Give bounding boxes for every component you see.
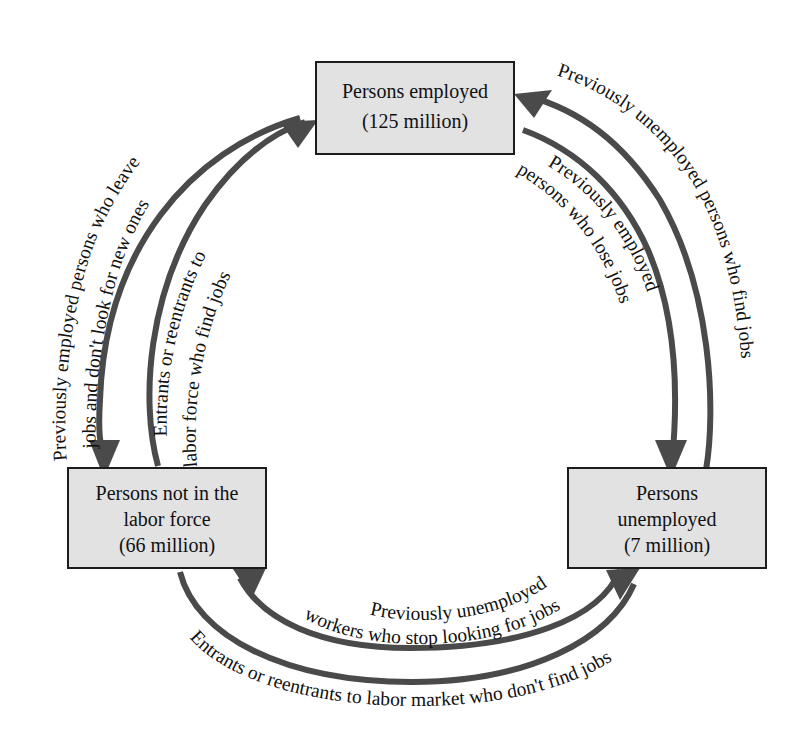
diagram-canvas: Previously employed persons who leave jo…: [0, 0, 810, 732]
box-unemployed: Persons unemployed (7 million): [568, 468, 766, 568]
box-not-in-labor-force-line2: labor force: [123, 508, 210, 530]
box-employed-line1: Persons employed: [342, 80, 488, 103]
box-not-in-labor-force-line3: (66 million): [119, 534, 215, 557]
box-unemployed-line2: unemployed: [618, 508, 717, 531]
box-not-in-labor-force-line1: Persons not in the: [96, 482, 239, 504]
box-unemployed-line3: (7 million): [624, 534, 710, 557]
flow-labels: Previously employed persons who leave jo…: [48, 59, 758, 710]
labor-market-flow-diagram: Previously employed persons who leave jo…: [0, 0, 810, 732]
box-unemployed-line1: Persons: [636, 482, 698, 504]
arrowhead-not-in-labor-force-to-employed: [280, 120, 318, 148]
box-not-in-labor-force: Persons not in the labor force (66 milli…: [68, 468, 266, 568]
box-employed-rect: [316, 62, 514, 154]
box-employed: Persons employed (125 million): [316, 62, 514, 154]
box-employed-line2: (125 million): [362, 110, 468, 133]
